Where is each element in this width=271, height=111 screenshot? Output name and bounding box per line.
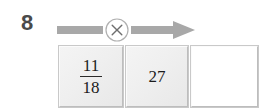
fraction-numerator: 11 [83,57,99,75]
fraction-denominator: 18 [83,79,100,96]
fraction-bar [80,76,102,77]
arrow-shaft-left [57,26,103,34]
number-value: 27 [149,68,166,85]
fraction-value: 11 18 [80,57,102,96]
fraction-cell: 11 18 [58,45,124,108]
arrow-shaft-right [131,26,175,34]
number-cell: 27 [125,45,189,108]
arrow-head [173,21,195,39]
fraction-multiplication-problem: 8 11 18 27 [0,0,271,111]
operation-arrow [57,18,197,44]
question-number: 8 [21,11,33,35]
answer-input-cell[interactable] [190,45,259,108]
expression-cells-row: 11 18 27 [58,45,259,108]
